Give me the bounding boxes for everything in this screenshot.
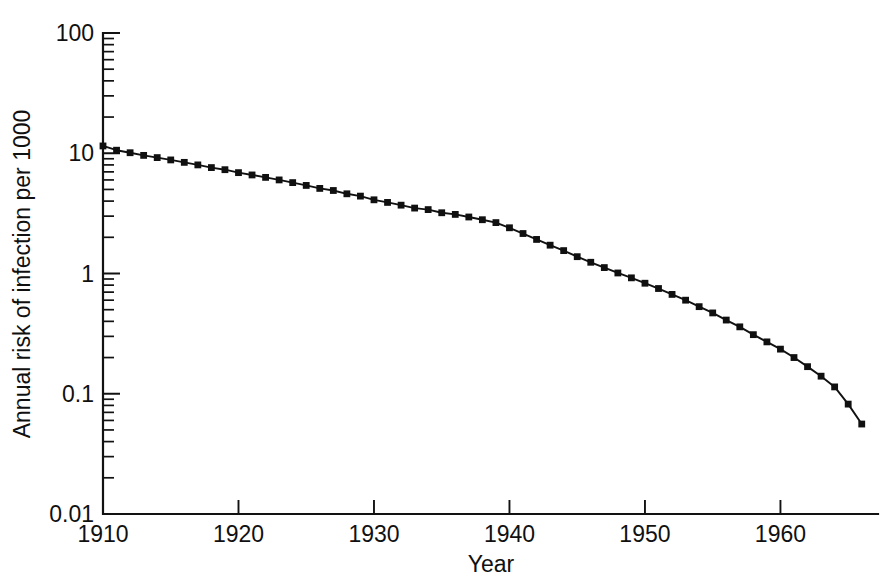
series-marker [276,177,283,184]
series-marker [222,166,229,173]
series-marker [642,280,649,287]
log-line-chart: 1001010.10.01 191019201930194019501960 Y… [0,0,895,581]
y-tick-label: 100 [56,20,94,46]
x-tick-label: 1930 [348,521,399,547]
x-tick-label: 1940 [484,521,535,547]
series-marker [316,185,323,192]
series-marker [845,401,852,408]
series-marker [547,242,554,249]
chart-page: 1001010.10.01 191019201930194019501960 Y… [0,0,895,581]
series-marker [574,253,581,260]
x-axis-tick-labels: 191019201930194019501960 [77,521,806,547]
series-marker [330,187,337,194]
series-marker [601,264,608,271]
y-axis-tick-labels: 1001010.10.01 [49,20,94,527]
series-marker [777,346,784,353]
series-marker [655,285,662,292]
x-axis-ticks [103,500,780,514]
series-marker [764,338,771,345]
series-marker [723,317,730,324]
series-marker [303,182,310,189]
series-marker [411,205,418,212]
series-marker [289,179,296,186]
series-marker [479,216,486,223]
y-tick-label: 1 [81,261,94,287]
series-marker [235,169,242,176]
y-tick-label: 0.1 [62,381,94,407]
series-marker [614,270,621,277]
series-marker [465,214,472,221]
series-marker [506,224,513,231]
series-marker [249,172,256,179]
series-marker [343,190,350,197]
series-marker [167,157,174,164]
y-tick-label: 10 [68,140,94,166]
series-marker [831,384,838,391]
series-marker [709,310,716,317]
series-marker [791,354,798,361]
series-marker [804,363,811,370]
series-marker [140,152,147,159]
series-line [103,146,862,424]
series-marker [493,219,500,226]
series-marker [520,230,527,237]
series-marker [736,323,743,330]
series-marker [533,236,540,243]
series-marker [669,291,676,298]
x-tick-label: 1920 [213,521,264,547]
series-marker [858,421,865,428]
series-marker [750,331,757,338]
x-tick-label: 1910 [77,521,128,547]
series-marker [262,174,269,181]
series-marker [154,154,161,161]
x-tick-label: 1950 [619,521,670,547]
axes [103,33,878,514]
series-marker [208,164,215,171]
series-marker [696,303,703,310]
series-marker [425,206,432,213]
series-marker [127,149,134,156]
series-marker [452,211,459,218]
y-axis-ticks [103,33,120,514]
series-marker [357,193,364,200]
x-tick-label: 1960 [755,521,806,547]
series-marker [560,247,567,254]
axis-spine [103,33,878,514]
series-marker [398,202,405,209]
data-series [100,143,866,428]
series-marker [194,162,201,169]
series-marker [181,159,188,166]
series-marker [682,297,689,304]
series-marker [100,143,107,150]
series-marker [113,147,120,154]
y-axis-title: Annual risk of infection per 1000 [9,110,35,439]
series-marker [384,199,391,206]
series-marker [371,196,378,203]
series-marker [587,259,594,266]
x-axis-title: Year [468,551,515,577]
series-marker [818,373,825,380]
series-marker [628,274,635,281]
series-marker [438,209,445,216]
